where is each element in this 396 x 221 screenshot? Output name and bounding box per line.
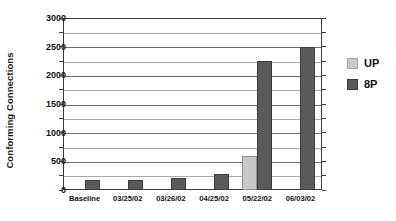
x-axis-tick-label: 03/26/02 bbox=[149, 194, 192, 203]
x-axis-tick-label: 03/25/02 bbox=[106, 194, 149, 203]
bar-8p-5[interactable] bbox=[300, 47, 315, 190]
legend-item-8p[interactable]: 8P bbox=[347, 78, 379, 90]
bar-up-4[interactable] bbox=[242, 156, 257, 190]
gridline-minor bbox=[64, 62, 321, 63]
gridline-major bbox=[64, 162, 321, 163]
bar-8p-3[interactable] bbox=[214, 174, 229, 190]
legend-swatch-up-icon bbox=[347, 58, 358, 69]
gridline-minor bbox=[64, 119, 321, 120]
x-axis-tick-label: Baseline bbox=[63, 194, 106, 203]
y-axis-tick-mark bbox=[322, 190, 326, 191]
legend: UP 8P bbox=[347, 57, 379, 90]
gridline-major bbox=[64, 105, 321, 106]
legend-label-up: UP bbox=[364, 57, 379, 69]
legend-swatch-8p-icon bbox=[347, 79, 358, 90]
x-axis-tick-label: 06/03/02 bbox=[279, 194, 322, 203]
y-axis-tick-mark bbox=[322, 89, 326, 90]
y-axis-tick-mark bbox=[322, 61, 326, 62]
legend-label-8p: 8P bbox=[364, 78, 377, 90]
x-axis-tick-label: 04/25/02 bbox=[193, 194, 236, 203]
gridline-major bbox=[64, 47, 321, 48]
bar-8p-0[interactable] bbox=[85, 180, 100, 190]
y-axis-tick-mark bbox=[322, 175, 326, 176]
bar-8p-4[interactable] bbox=[257, 61, 272, 190]
y-axis-tick-mark bbox=[322, 75, 326, 76]
gridline-minor bbox=[64, 176, 321, 177]
y-axis-tick-mark bbox=[322, 18, 326, 19]
y-axis-tick-mark bbox=[322, 132, 326, 133]
bar-8p-1[interactable] bbox=[128, 180, 143, 190]
bar-8p-2[interactable] bbox=[171, 178, 186, 190]
x-axis-tick-labels: Baseline03/25/0203/26/0204/25/0205/22/02… bbox=[63, 194, 322, 203]
y-axis-tick-mark bbox=[322, 161, 326, 162]
gridline-minor bbox=[64, 90, 321, 91]
legend-item-up[interactable]: UP bbox=[347, 57, 379, 69]
y-axis-tick-mark bbox=[322, 32, 326, 33]
bar-chart: Conforming Connections 05001000150020002… bbox=[0, 0, 396, 221]
gridline-minor bbox=[64, 148, 321, 149]
y-axis-title: Conforming Connections bbox=[0, 0, 18, 221]
gridline-major bbox=[64, 133, 321, 134]
gridline-major bbox=[64, 76, 321, 77]
y-axis-tick-mark bbox=[322, 46, 326, 47]
y-axis-tick-mark bbox=[322, 118, 326, 119]
x-axis-tick-label: 05/22/02 bbox=[236, 194, 279, 203]
y-axis-tick-mark bbox=[322, 147, 326, 148]
y-axis-tick-mark bbox=[322, 104, 326, 105]
plot-area bbox=[63, 18, 322, 190]
gridline-minor bbox=[64, 33, 321, 34]
